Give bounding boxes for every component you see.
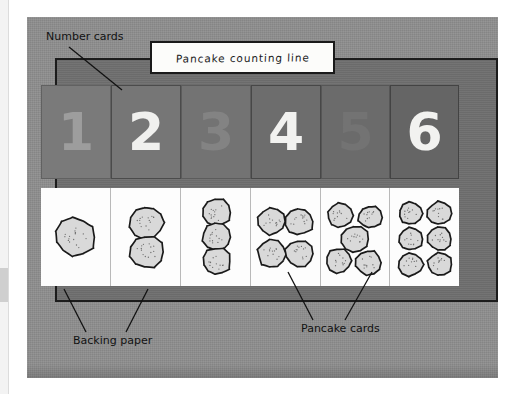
pancake-speckle <box>442 218 443 219</box>
pancake-speckle <box>219 265 220 266</box>
pancake-card-1[interactable] <box>41 188 111 286</box>
title-sign-text: Pancake counting line <box>175 51 309 64</box>
pancake-card-5[interactable] <box>321 188 390 286</box>
pancake-speckle <box>300 214 301 215</box>
pancake-speckle <box>212 242 213 243</box>
number-card-1[interactable]: 1 <box>41 85 111 179</box>
pancake-speckle <box>369 217 370 218</box>
pancake-speckle <box>412 258 413 259</box>
number-card-digit: 3 <box>198 106 234 158</box>
pancake-speckle <box>362 238 363 239</box>
pancake-speckle <box>213 216 214 217</box>
number-card-4[interactable]: 4 <box>251 85 321 179</box>
pancake-card-2[interactable] <box>111 188 181 286</box>
pancake-speckle <box>217 242 218 243</box>
pancake-speckle <box>295 217 296 218</box>
pancake-speckle <box>366 214 367 215</box>
pancake-speckle <box>437 257 438 258</box>
number-card-5[interactable]: 5 <box>321 85 390 179</box>
pancake-speckle <box>142 216 143 217</box>
page-edge-rule <box>8 0 9 394</box>
pancake-speckle <box>303 221 304 222</box>
pancake-speckle <box>432 210 433 211</box>
pancake-speckle <box>214 211 215 212</box>
pancake-speckle <box>139 223 140 224</box>
pancake-speckle <box>141 250 142 251</box>
pancake-speckle <box>435 235 436 236</box>
pancake-speckle <box>439 260 440 261</box>
pancake-speckle <box>142 254 143 255</box>
pancake-speckle <box>68 238 69 239</box>
pancake-speckle <box>433 265 434 266</box>
pancake-speckle <box>272 254 273 255</box>
pancake-speckle <box>438 216 439 217</box>
pancake-speckle <box>290 223 291 224</box>
pancake-card-row <box>41 188 459 286</box>
pancake-speckle <box>339 210 340 211</box>
pancake-speckle <box>150 252 151 253</box>
pancake <box>427 227 451 250</box>
pancake-speckle <box>276 259 277 260</box>
pancake-speckle <box>216 263 217 264</box>
number-card-row: 123456 <box>41 85 459 179</box>
pancake-speckle <box>342 262 343 263</box>
pancake-speckle <box>65 234 66 235</box>
pancake-speckle <box>408 243 409 244</box>
pancake-speckle <box>145 256 146 257</box>
pancake-speckle <box>276 225 277 226</box>
pancake-speckle <box>415 266 416 267</box>
pancake-speckle <box>78 247 79 248</box>
pancake-speckle <box>442 208 443 209</box>
pancake-speckle <box>211 216 212 217</box>
pancake-speckle <box>212 232 213 233</box>
pancake-speckle <box>268 214 269 215</box>
pancake-speckle <box>150 221 151 222</box>
number-card-2[interactable]: 2 <box>111 85 181 179</box>
pancake-speckle <box>141 245 142 246</box>
pancake-speckle <box>353 236 354 237</box>
pancake-speckle <box>404 239 405 240</box>
pancake-speckle <box>85 238 86 239</box>
pancake-speckle <box>306 256 307 257</box>
number-card-3[interactable]: 3 <box>181 85 251 179</box>
pancake-speckle <box>408 212 409 213</box>
pancake-speckle <box>403 265 404 266</box>
pancake-speckle <box>303 248 304 249</box>
pancake-speckle <box>297 245 298 246</box>
pancake-speckle <box>404 211 405 212</box>
number-card-6[interactable]: 6 <box>390 85 459 179</box>
pancake-speckle <box>339 211 340 212</box>
pancake-card-6[interactable] <box>390 188 459 286</box>
pancake-speckle <box>367 212 368 213</box>
pancake-speckle <box>150 246 151 247</box>
pancake-speckle <box>272 250 273 251</box>
pancake-speckle <box>216 235 217 236</box>
pancake-speckle <box>366 266 367 267</box>
pancake-speckle <box>365 264 366 265</box>
pancake-speckle <box>149 220 150 221</box>
pancake-speckle <box>269 250 270 251</box>
pancake-card-4[interactable] <box>251 188 321 286</box>
pancake-speckle <box>363 213 364 214</box>
pancake-speckle <box>443 239 444 240</box>
pancake-illustration <box>390 188 459 286</box>
pancake-speckle <box>213 257 214 258</box>
pancake-speckle <box>153 251 154 252</box>
pancake-speckle <box>351 235 352 236</box>
pancake-speckle <box>149 243 150 244</box>
pancake-speckle <box>210 262 211 263</box>
pancake-speckle <box>407 209 408 210</box>
pancake-speckle <box>341 213 342 214</box>
pancake <box>399 227 423 249</box>
pancake <box>327 249 352 274</box>
pancake-speckle <box>306 219 307 220</box>
pancake-speckle <box>412 209 413 210</box>
pancake-speckle <box>210 234 211 235</box>
pancake-speckle <box>439 208 440 209</box>
pancake-card-3[interactable] <box>181 188 251 286</box>
pancake-speckle <box>337 216 338 217</box>
pancake-speckle <box>69 241 70 242</box>
pancake-speckle <box>278 256 279 257</box>
pancake-speckle <box>148 257 149 258</box>
pancake-speckle <box>302 215 303 216</box>
